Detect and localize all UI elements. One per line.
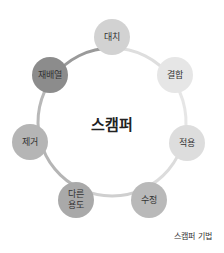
node-modify: 수정 [131, 182, 167, 218]
node-rearrange: 재배열 [32, 57, 68, 93]
node-label: 결합 [167, 70, 183, 81]
node-label-line2: 용도 [68, 200, 84, 211]
node-label: 수정 [141, 195, 157, 206]
center-title: 스캠퍼 [82, 113, 142, 134]
node-label-line1: 다른 [68, 189, 84, 200]
node-adapt: 적용 [169, 125, 205, 161]
node-label: 재배열 [38, 70, 62, 81]
node-label: 제거 [22, 137, 38, 148]
node-combine: 결합 [157, 57, 193, 93]
node-substitute: 대치 [94, 19, 130, 55]
scamper-diagram: 대치 결합 적용 수정 다른 용도 제거 재배열 스캠퍼 스캠퍼 기법 [0, 0, 224, 253]
node-eliminate: 제거 [12, 124, 48, 160]
node-label: 적용 [179, 138, 195, 149]
node-put-to-other-use: 다른 용도 [58, 182, 94, 218]
figure-caption: 스캠퍼 기법 [174, 230, 212, 241]
node-label: 대치 [104, 32, 120, 43]
